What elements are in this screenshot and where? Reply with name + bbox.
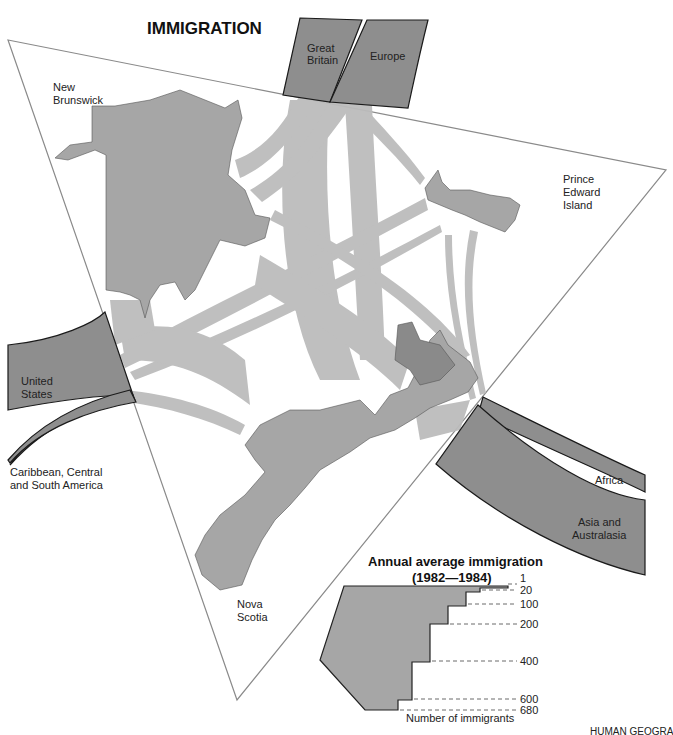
legend-tick-20: 20	[520, 584, 532, 596]
label-nova-scotia-1: Nova	[237, 598, 264, 610]
map-title: IMMIGRATION	[147, 19, 262, 38]
legend-tick-680: 680	[520, 704, 538, 716]
legend-scale-shape	[320, 586, 508, 710]
label-nova-scotia-2: Scotia	[237, 611, 268, 623]
label-asia-1: Asia and	[578, 516, 621, 528]
label-pei-2: Edward	[563, 186, 600, 198]
label-europe: Europe	[370, 50, 405, 62]
label-united-states-1: United	[21, 375, 53, 387]
label-africa: Africa	[595, 474, 624, 486]
label-new-brunswick-2: Brunswick	[53, 94, 104, 106]
label-asia-2: Australasia	[572, 529, 627, 541]
legend-title-1: Annual average immigration	[368, 554, 543, 569]
legend-tick-200: 200	[520, 618, 538, 630]
label-great-britain-2: Britain	[307, 54, 338, 66]
label-pei-3: Island	[563, 199, 592, 211]
label-great-britain-1: Great	[307, 42, 335, 54]
label-pei-1: Prince	[563, 173, 594, 185]
legend-axis-label: Number of immigrants	[406, 712, 515, 724]
legend-tick-100: 100	[520, 598, 538, 610]
legend-tick-400: 400	[520, 655, 538, 667]
label-new-brunswick-1: New	[53, 81, 75, 93]
label-caribbean-2: and South America	[10, 479, 104, 491]
legend-title-2: (1982—1984)	[412, 570, 492, 585]
credit-text: HUMAN GEOGRA	[590, 726, 673, 735]
immigration-flow-map: IMMIGRATION New Brunswick Prince Edward …	[0, 0, 673, 735]
label-caribbean-1: Caribbean, Central	[10, 466, 102, 478]
legend: Annual average immigration (1982—1984) 1…	[320, 554, 543, 724]
label-united-states-2: States	[21, 388, 53, 400]
legend-tick-1: 1	[520, 572, 526, 584]
